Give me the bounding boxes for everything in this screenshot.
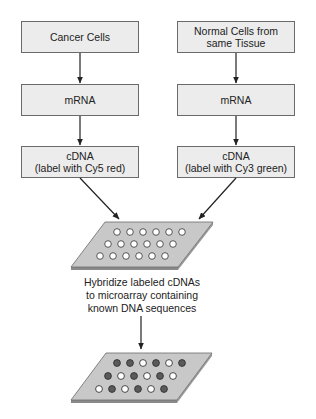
left-cdna-box: cDNA (label with Cy5 red) <box>21 146 139 178</box>
left-cdna-sublabel: (label with Cy5 red) <box>35 162 125 174</box>
right-cdna-sublabel: (label with Cy3 green) <box>185 162 287 174</box>
right-cdna-box: cDNA (label with Cy3 green) <box>177 146 295 178</box>
arrow-right-cdna-to-microarray <box>199 178 236 219</box>
microarray-after-spots <box>96 360 186 393</box>
microarray-before-spots <box>97 229 186 260</box>
microarray-slide-before <box>71 222 213 270</box>
left-cdna-label: cDNA <box>66 150 93 162</box>
normal-cells-box: Normal Cells from same Tissue <box>177 21 295 53</box>
caption-line-1: Hybridize labeled cDNAs <box>70 276 214 289</box>
cancer-cells-label: Cancer Cells <box>50 31 110 43</box>
right-cdna-label: cDNA <box>222 150 249 162</box>
left-mrna-label: mRNA <box>65 94 96 106</box>
hybridize-caption: Hybridize labeled cDNAs to microarray co… <box>70 276 214 315</box>
caption-line-2: to microarray containing <box>70 289 214 302</box>
microarray-slide-after <box>71 353 212 403</box>
cancer-cells-box: Cancer Cells <box>21 21 139 53</box>
right-mrna-label: mRNA <box>221 94 252 106</box>
left-mrna-box: mRNA <box>21 84 139 116</box>
caption-line-3: known DNA sequences <box>70 302 214 315</box>
normal-cells-label-line1: Normal Cells from <box>194 25 278 37</box>
arrow-left-cdna-to-microarray <box>80 178 119 219</box>
right-mrna-box: mRNA <box>177 84 295 116</box>
diagram-graphics <box>0 0 316 419</box>
normal-cells-label-line2: same Tissue <box>207 37 266 49</box>
